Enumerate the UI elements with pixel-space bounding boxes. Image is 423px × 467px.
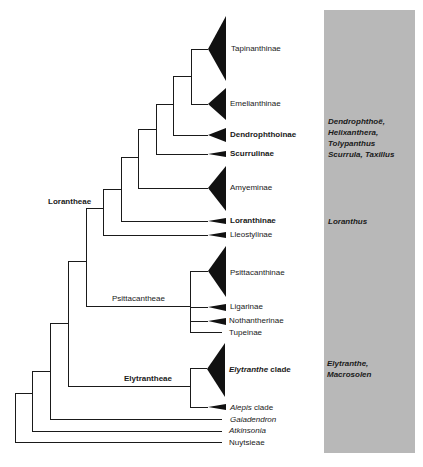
taxon-suffix-clade: clade <box>252 403 273 412</box>
taxon-label-tapinanthinae: Tapinanthinae <box>231 44 281 54</box>
branch-elytrantheae-clade <box>190 368 208 407</box>
genera-line: Elytranthe, <box>327 358 371 369</box>
tribe-label-psittacantheae: Psittacantheae <box>112 294 165 304</box>
clade-triangle-amyeminae <box>208 166 226 211</box>
tribe-label-elytrantheae: Elytrantheae <box>124 374 172 384</box>
clade-triangle-tapinanthinae <box>208 16 226 81</box>
clade-triangle-alepis <box>208 404 226 410</box>
figure-caption-cutoff <box>0 459 423 467</box>
clade-triangle-dendrophthoinae <box>208 128 226 142</box>
genera-line: Tolypanthus <box>328 138 394 149</box>
taxon-label-psittacanthinae: Psittacanthinae <box>230 268 285 278</box>
clade-triangle-emelianthinae <box>208 88 226 120</box>
taxon-label-dendrophthoinae: Dendrophthoinae <box>230 130 296 140</box>
branch-scurrulinae <box>156 104 208 154</box>
branch-root <box>15 393 222 442</box>
genera-group-dendrophthoinae-scurrulinae: Dendrophthoë, Helixanthera, Tolypanthus … <box>328 116 394 160</box>
taxon-label-tupeinae: Tupeinae <box>229 328 262 338</box>
clade-triangle-nothantherinae <box>208 318 226 325</box>
taxon-label-emelianthinae: Emelianthinae <box>230 99 281 109</box>
branch-psittacantheae <box>86 208 190 306</box>
taxon-label-elytranthe-clade: Elytranthe clade <box>229 365 291 375</box>
genera-line: Dendrophthoë, <box>328 116 394 127</box>
branch-tapin-emelian <box>191 49 208 104</box>
taxon-label-alepis-clade: Alepis clade <box>230 403 273 413</box>
taxon-label-ligarinae: Ligarinae <box>230 302 263 312</box>
taxon-genus-elytranthe: Elytranthe <box>229 365 268 374</box>
genera-panel <box>324 10 415 453</box>
taxon-label-lleostylinae: Lleostylinae <box>230 230 272 240</box>
taxon-label-atkinsonia: Atkinsonia <box>229 426 266 436</box>
taxon-label-scurrulinae: Scurrulinae <box>230 149 274 159</box>
clade-triangle-ligarinae <box>208 304 226 311</box>
branch-loranthinae <box>121 157 208 221</box>
taxon-label-nuytsieae: Nuytsieae <box>229 438 265 448</box>
genera-line: Macrosolen <box>327 369 371 380</box>
clade-triangle-loranthinae <box>208 218 226 224</box>
clade-triangle-lleostylinae <box>208 232 226 238</box>
clade-triangle-scurrulinae <box>208 151 226 157</box>
genera-line: Loranthus <box>328 216 367 227</box>
branch-gaiadendron-node <box>50 323 222 419</box>
genera-group-elytrantheae: Elytranthe, Macrosolen <box>327 358 371 380</box>
branch-lleostylinae <box>103 189 208 235</box>
tribe-label-lorantheae: Lorantheae <box>48 197 91 207</box>
taxon-label-gaiadendron: Gaiadendron <box>230 415 276 425</box>
clade-triangle-elytranthe <box>207 343 225 397</box>
taxon-genus-alepis: Alepis <box>230 403 252 412</box>
taxon-label-nothantherinae: Nothantherinae <box>229 316 284 326</box>
genera-line: Scurrula, Taxillus <box>328 149 394 160</box>
genera-line: Helixanthera, <box>328 127 394 138</box>
branch-amyeminae <box>138 129 208 188</box>
clade-triangle-psittacanthinae <box>208 246 226 297</box>
taxon-suffix-clade: clade <box>268 365 291 374</box>
taxon-label-loranthinae: Loranthinae <box>230 216 276 226</box>
genera-group-loranthinae: Loranthus <box>328 216 367 227</box>
taxon-label-amyeminae: Amyeminae <box>230 183 272 193</box>
